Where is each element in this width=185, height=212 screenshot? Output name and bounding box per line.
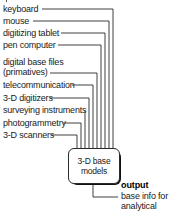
node-label-line1: 3-D base: [78, 156, 111, 166]
node-3d-base-models: 3-D base models: [68, 148, 120, 184]
wire-digitizing-tablet: [61, 33, 105, 149]
wire-pen-computer: [58, 45, 101, 149]
diagram-canvas: keyboard mouse digitizing tablet pen com…: [0, 0, 185, 212]
wire-keyboard: [42, 9, 113, 149]
wire-photogrammetry: [63, 123, 81, 149]
wire-3d-scanners: [51, 135, 77, 149]
wire-3d-digitizers: [50, 98, 89, 149]
wire-telecommunication: [72, 85, 93, 149]
wire-digital-base-files: [50, 73, 97, 149]
wire-mouse: [33, 21, 109, 149]
output-description: base info for analytical models: [121, 191, 185, 212]
output-title: output: [121, 180, 148, 190]
node-label-line2: models: [81, 166, 107, 176]
